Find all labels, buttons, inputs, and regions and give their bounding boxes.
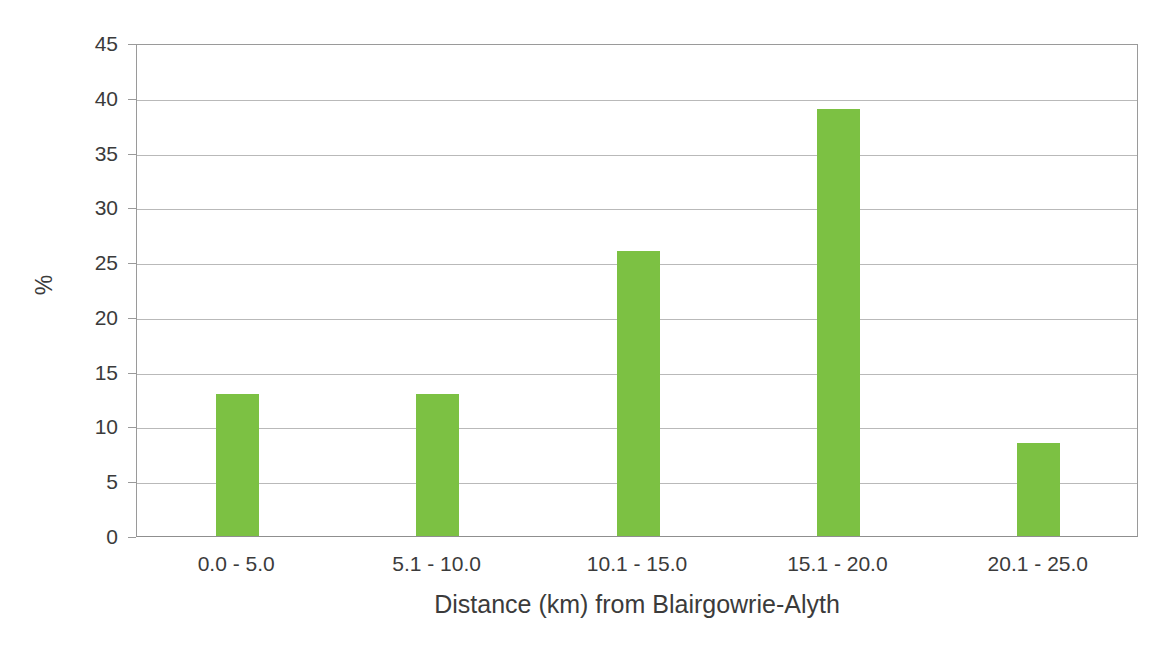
x-axis-title: Distance (km) from Blairgowrie-Alyth	[136, 590, 1138, 618]
bar	[617, 251, 660, 536]
y-axis-tick-mark	[128, 482, 136, 483]
bar-chart-figure: % 051015202530354045 0.0 - 5.05.1 - 10.0…	[0, 0, 1172, 646]
y-axis-tick-label: 35	[58, 143, 118, 164]
y-axis-tick-label: 10	[58, 416, 118, 437]
y-axis-title: %	[31, 265, 57, 305]
y-axis-tick-label: 15	[58, 362, 118, 383]
gridline	[137, 209, 1137, 210]
y-axis-tick-mark	[128, 263, 136, 264]
y-axis-tick-mark	[128, 154, 136, 155]
x-axis-tick-label: 0.0 - 5.0	[198, 552, 275, 576]
bar	[416, 394, 459, 536]
plot-area	[136, 44, 1138, 537]
y-axis-tick-mark	[128, 208, 136, 209]
y-axis-tick-label: 25	[58, 252, 118, 273]
y-axis-tick-label: 45	[58, 33, 118, 54]
y-axis-tick-mark	[128, 373, 136, 374]
y-axis-tick-mark	[128, 318, 136, 319]
x-axis-tick-label: 15.1 - 20.0	[787, 552, 887, 576]
x-axis-tick-label: 20.1 - 25.0	[988, 552, 1088, 576]
y-axis-tick-label: 40	[58, 88, 118, 109]
gridline	[137, 100, 1137, 101]
y-axis-tick-label: 30	[58, 197, 118, 218]
y-axis-tick-mark	[128, 99, 136, 100]
bar	[216, 394, 259, 536]
y-axis-tick-mark	[128, 537, 136, 538]
y-axis-tick-mark	[128, 427, 136, 428]
bar	[817, 109, 860, 536]
y-axis-tick-label: 20	[58, 307, 118, 328]
y-axis-tick-mark	[128, 44, 136, 45]
y-axis-tick-label: 5	[58, 471, 118, 492]
gridline	[137, 155, 1137, 156]
x-axis-tick-label: 5.1 - 10.0	[392, 552, 481, 576]
x-axis-tick-label: 10.1 - 15.0	[587, 552, 687, 576]
y-axis-tick-label: 0	[58, 526, 118, 547]
bar	[1017, 443, 1060, 536]
